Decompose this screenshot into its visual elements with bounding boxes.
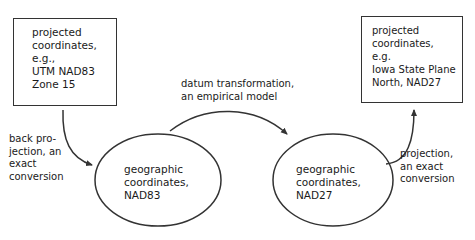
right-box-text: projected coordinates, e.g. Iowa State P… [372,24,456,89]
left-ellipse-text: geographic coordinates, NAD83 [124,163,189,202]
back-projection-label: back pro- jection, an exact conversion [9,133,64,183]
datum-transformation-arrow [170,111,287,134]
datum-transformation-label: datum transformation, an empirical model [181,78,294,103]
back-projection-arrow [63,110,92,165]
projection-label: projection, an exact conversion [400,148,455,186]
right-ellipse-text: geographic coordinates, NAD27 [296,163,361,202]
left-box-text: projected coordinates, e.g., UTM NAD83 Z… [32,26,97,91]
